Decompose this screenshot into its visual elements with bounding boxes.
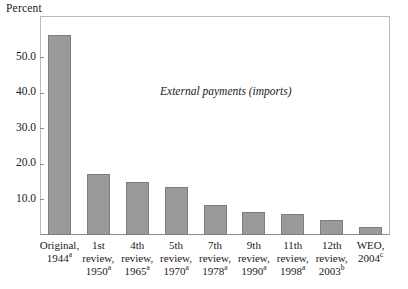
footnote-marker: c bbox=[380, 251, 383, 260]
footnote-marker: a bbox=[185, 264, 188, 273]
y-axis-tick-label: 30.0 bbox=[16, 121, 36, 133]
footnote-marker: a bbox=[108, 264, 111, 273]
series-annotation-external-payments: External payments (imports) bbox=[160, 85, 292, 97]
x-axis-category-label-line: 2003b bbox=[309, 265, 354, 278]
footnote-marker: a bbox=[302, 264, 305, 273]
y-axis-tick-label: 50.0 bbox=[16, 50, 36, 62]
bar bbox=[165, 187, 188, 235]
y-axis-tick-mark bbox=[40, 57, 44, 58]
bar bbox=[359, 227, 382, 235]
y-axis-tick-label: 20.0 bbox=[16, 156, 36, 168]
x-axis-category-label-line: WEO, bbox=[348, 239, 393, 252]
bar bbox=[87, 174, 110, 235]
y-axis-tick-mark bbox=[40, 164, 44, 165]
y-axis-tick-mark bbox=[40, 199, 44, 200]
footnote-marker: a bbox=[147, 264, 150, 273]
bar bbox=[242, 212, 265, 235]
bar-chart-figure: Percent 10.020.030.040.050.0 External pa… bbox=[0, 0, 408, 289]
footnote-marker: a bbox=[224, 264, 227, 273]
y-axis-tick-label: 40.0 bbox=[16, 85, 36, 97]
bar bbox=[126, 182, 149, 235]
footnote-marker: a bbox=[263, 264, 266, 273]
bar bbox=[48, 35, 71, 235]
bar bbox=[281, 214, 304, 235]
x-axis-category-label-line: 2004c bbox=[348, 252, 393, 265]
footnote-marker: b bbox=[341, 264, 345, 273]
footnote-marker: a bbox=[69, 251, 72, 260]
y-axis-tick-label: 10.0 bbox=[16, 192, 36, 204]
x-axis-category-label: WEO,2004c bbox=[348, 239, 393, 265]
y-axis-tick-mark bbox=[40, 93, 44, 94]
bar bbox=[320, 220, 343, 235]
bar bbox=[204, 205, 227, 235]
y-axis-unit-label: Percent bbox=[6, 2, 42, 14]
y-axis-tick-mark bbox=[40, 128, 44, 129]
